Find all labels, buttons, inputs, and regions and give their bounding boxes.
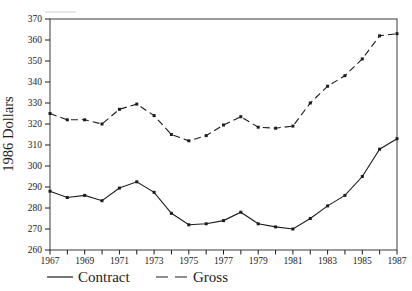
- x-tick-label: 1973: [145, 256, 164, 266]
- y-tick-label: 350: [28, 56, 43, 66]
- x-axis: 1967196919711973197519771979198119831985…: [41, 250, 407, 266]
- x-tick-label: 1983: [318, 256, 337, 266]
- legend-contract-label: Contract: [78, 269, 130, 285]
- data-point-contract: [118, 187, 121, 190]
- legend: Contract Gross: [47, 269, 228, 285]
- data-point-gross: [257, 126, 260, 129]
- data-point-gross: [83, 118, 86, 121]
- data-point-gross: [361, 57, 364, 60]
- data-point-gross: [66, 118, 69, 121]
- data-point-contract: [257, 222, 260, 225]
- x-tick-label: 1969: [75, 256, 94, 266]
- data-point-contract: [309, 217, 312, 220]
- data-point-contract: [274, 225, 277, 228]
- plot-frame: [50, 19, 397, 250]
- data-point-contract: [343, 194, 346, 197]
- data-point-contract: [222, 219, 225, 222]
- data-point-contract: [153, 191, 156, 194]
- chart-figure: 260270280290300310320330340350360370 196…: [0, 0, 412, 291]
- data-point-contract: [83, 194, 86, 197]
- data-point-contract: [135, 180, 138, 183]
- data-point-gross: [309, 102, 312, 105]
- x-tick-label: 1987: [388, 256, 407, 266]
- data-point-contract: [239, 211, 242, 214]
- x-tick-label: 1967: [41, 256, 60, 266]
- x-tick-label: 1977: [214, 256, 233, 266]
- x-tick-label: 1985: [353, 256, 372, 266]
- y-tick-label: 280: [28, 203, 43, 213]
- x-tick-label: 1975: [179, 256, 198, 266]
- y-tick-label: 320: [28, 119, 43, 129]
- data-point-gross: [291, 125, 294, 128]
- data-point-gross: [187, 139, 190, 142]
- x-tick-label: 1971: [110, 256, 129, 266]
- data-point-gross: [205, 134, 208, 137]
- data-point-contract: [187, 223, 190, 226]
- data-point-gross: [49, 112, 52, 115]
- data-point-gross: [135, 103, 138, 106]
- y-tick-label: 330: [28, 98, 43, 108]
- data-point-contract: [378, 148, 381, 151]
- x-tick-label: 1979: [249, 256, 268, 266]
- data-point-contract: [170, 212, 173, 215]
- line-chart: 260270280290300310320330340350360370 196…: [0, 0, 412, 291]
- data-point-gross: [326, 85, 329, 88]
- data-point-contract: [361, 175, 364, 178]
- data-point-gross: [274, 127, 277, 130]
- series-layer: [49, 32, 399, 230]
- data-point-contract: [291, 228, 294, 231]
- data-point-contract: [326, 204, 329, 207]
- x-tick-label: 1981: [283, 256, 302, 266]
- data-point-gross: [222, 124, 225, 127]
- data-point-gross: [101, 123, 104, 126]
- data-point-gross: [118, 108, 121, 111]
- data-point-contract: [396, 137, 399, 140]
- y-tick-label: 310: [28, 140, 43, 150]
- data-point-contract: [101, 199, 104, 202]
- data-point-gross: [153, 114, 156, 117]
- y-tick-label: 300: [28, 161, 43, 171]
- y-tick-label: 260: [28, 245, 43, 255]
- series-line-contract: [50, 139, 397, 229]
- data-point-gross: [396, 32, 399, 35]
- y-tick-label: 290: [28, 182, 43, 192]
- y-tick-label: 370: [28, 14, 43, 24]
- y-tick-label: 340: [28, 77, 43, 87]
- legend-gross-label: Gross: [193, 269, 228, 285]
- data-point-gross: [170, 133, 173, 136]
- data-point-gross: [239, 115, 242, 118]
- data-point-contract: [66, 196, 69, 199]
- y-tick-label: 360: [28, 35, 43, 45]
- y-axis: 260270280290300310320330340350360370: [28, 14, 50, 255]
- y-tick-label: 270: [28, 224, 43, 234]
- data-point-gross: [378, 34, 381, 37]
- data-point-gross: [343, 74, 346, 77]
- data-point-contract: [205, 222, 208, 225]
- data-point-contract: [49, 190, 52, 193]
- y-axis-title: 1986 Dollars: [0, 96, 16, 172]
